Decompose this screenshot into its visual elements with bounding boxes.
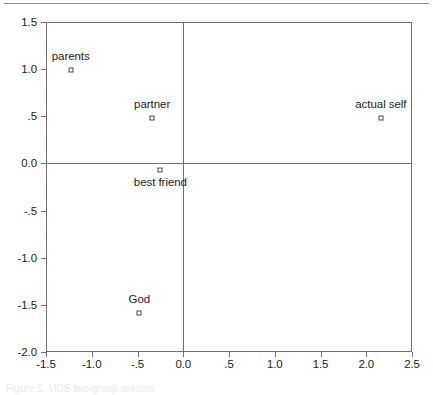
plot-area-frame: [46, 22, 412, 352]
y-tick-label: 1.5: [21, 16, 37, 28]
x-tick: [321, 352, 322, 357]
y-tick-label: -.5: [24, 205, 37, 217]
y-tick: [41, 69, 46, 70]
x-tick: [46, 352, 47, 357]
data-point-marker: [158, 168, 163, 173]
scatter-plot-figure: -1.5-1.0-.50.0.51.01.52.02.5 1.51.0.50.0…: [0, 0, 433, 395]
figure-caption: Figure 1. MDS two-group solution: [6, 383, 426, 394]
y-tick-label: 1.0: [21, 63, 37, 75]
x-tick-label: .5: [224, 358, 233, 370]
y-tick-label: .5: [28, 110, 37, 122]
data-point-label: best friend: [134, 176, 187, 188]
data-point-marker: [150, 116, 155, 121]
y-tick: [41, 163, 46, 164]
y-tick: [41, 22, 46, 23]
x-tick: [183, 352, 184, 357]
y-tick: [41, 352, 46, 353]
y-tick: [41, 305, 46, 306]
x-tick-label: -.5: [131, 358, 144, 370]
x-tick-label: -1.0: [82, 358, 101, 370]
x-tick-label: 2.0: [358, 358, 374, 370]
x-tick-label: 0.0: [175, 358, 191, 370]
y-tick-label: 0.0: [21, 157, 37, 169]
x-tick-label: -1.5: [36, 358, 55, 370]
y-tick: [41, 211, 46, 212]
data-point-label: parents: [52, 50, 90, 62]
data-point-label: partner: [134, 98, 170, 110]
x-tick-label: 1.5: [313, 358, 329, 370]
x-tick: [366, 352, 367, 357]
x-tick-label: 2.5: [404, 358, 420, 370]
data-point-marker: [137, 311, 142, 316]
x-tick: [138, 352, 139, 357]
data-point-marker: [378, 116, 383, 121]
y-tick-label: -2.0: [18, 346, 37, 358]
y-tick-label: -1.5: [18, 299, 37, 311]
horizontal-reference-line: [46, 163, 412, 164]
x-tick: [412, 352, 413, 357]
y-tick: [41, 116, 46, 117]
data-point-marker: [68, 68, 73, 73]
x-tick: [92, 352, 93, 357]
x-tick: [229, 352, 230, 357]
x-tick: [275, 352, 276, 357]
top-divider-rule: [4, 3, 429, 4]
data-point-label: actual self: [355, 98, 406, 110]
x-tick-label: 1.0: [267, 358, 283, 370]
y-tick: [41, 258, 46, 259]
data-point-label: God: [129, 293, 151, 305]
y-tick-label: -1.0: [18, 252, 37, 264]
